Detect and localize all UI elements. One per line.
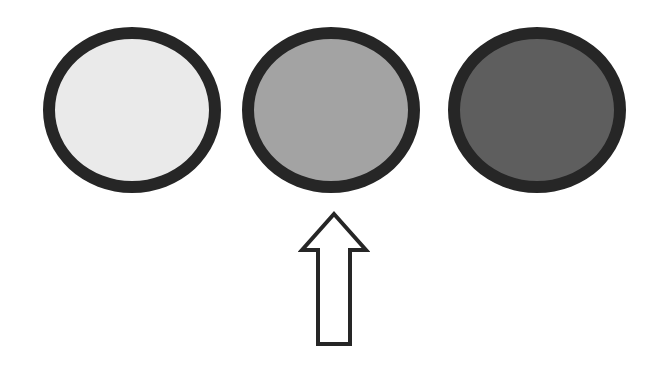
circle-dark xyxy=(448,27,626,193)
circle-light xyxy=(43,27,221,193)
up-arrow-icon xyxy=(298,210,370,348)
circle-medium xyxy=(242,27,420,193)
